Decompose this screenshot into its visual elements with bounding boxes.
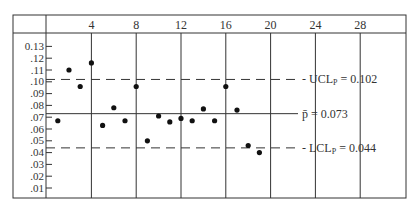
- p-control-chart: 481216202428 .01.02.03.04.05.06.07.08.09…: [0, 0, 417, 208]
- center-label: p̄ = 0.073: [302, 107, 348, 121]
- y-tick-label: .05: [30, 134, 44, 146]
- y-tick-label: .10: [30, 75, 44, 87]
- data-point: [167, 119, 172, 124]
- data-point: [100, 123, 105, 128]
- data-point: [156, 113, 161, 118]
- data-point: [134, 84, 139, 89]
- data-point: [234, 108, 239, 113]
- data-point: [122, 118, 127, 123]
- lcl-label: - LCLP = 0.044: [302, 141, 376, 156]
- x-tick-label: 24: [309, 18, 321, 32]
- y-tick-label: .06: [30, 123, 44, 135]
- data-point: [78, 84, 83, 89]
- ucl-label: - UCLP = 0.102: [302, 72, 377, 87]
- y-tick-label: .04: [30, 146, 44, 158]
- data-point: [89, 60, 94, 65]
- data-point: [190, 118, 195, 123]
- data-point: [178, 116, 183, 121]
- x-tick-label: 4: [88, 18, 94, 32]
- y-axis: .01.02.03.04.05.06.07.08.09.10.11.120.13: [25, 40, 52, 194]
- y-tick-label: .11: [31, 64, 44, 76]
- data-point: [66, 67, 71, 72]
- y-tick-label: .08: [30, 99, 44, 111]
- y-tick-label: .02: [30, 170, 44, 182]
- y-tick-label: .09: [30, 87, 44, 99]
- x-tick-label: 28: [354, 18, 366, 32]
- data-point: [212, 118, 217, 123]
- x-tick-label: 12: [175, 18, 187, 32]
- y-tick-label: 0.13: [25, 40, 45, 52]
- x-tick-label: 16: [220, 18, 232, 32]
- x-tick-label: 20: [265, 18, 277, 32]
- y-tick-label: .07: [30, 111, 44, 123]
- y-tick-label: .03: [30, 158, 44, 170]
- data-point: [201, 106, 206, 111]
- data-point: [55, 118, 60, 123]
- y-tick-label: .01: [30, 182, 44, 194]
- data-points: [55, 60, 262, 155]
- data-point: [145, 138, 150, 143]
- data-point: [111, 105, 116, 110]
- control-limit-lines: - UCLP = 0.102p̄ = 0.073- LCLP = 0.044: [46, 72, 377, 155]
- data-point: [246, 143, 251, 148]
- data-point: [257, 150, 262, 155]
- x-tick-label: 8: [133, 18, 139, 32]
- y-tick-label: .12: [30, 52, 44, 64]
- data-point: [223, 84, 228, 89]
